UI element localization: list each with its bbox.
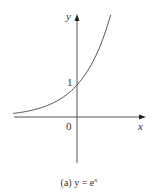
y-axis-label: y xyxy=(66,11,71,22)
x-axis-label: x xyxy=(138,121,143,132)
exponential-graph xyxy=(0,0,158,194)
exponential-curve xyxy=(13,15,110,114)
x-axis-arrow-icon xyxy=(139,115,146,120)
caption-exponent: x xyxy=(94,176,97,184)
figure-caption: (a) y = ex xyxy=(0,176,158,188)
y-axis-arrow-icon xyxy=(75,14,80,21)
origin-label: 0 xyxy=(66,121,72,132)
y-intercept-label: 1 xyxy=(67,77,73,88)
caption-text: (a) y = e xyxy=(61,177,95,188)
